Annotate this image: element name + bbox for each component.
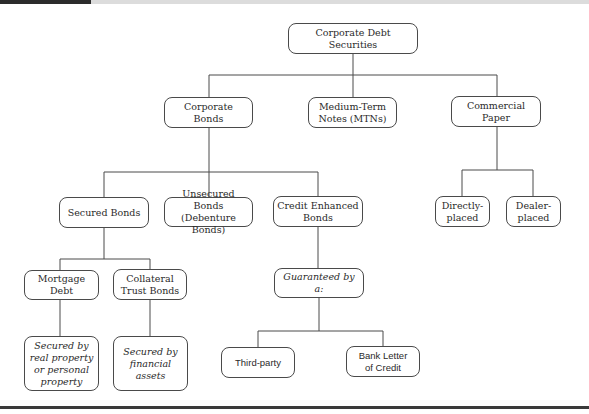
node-guaranteed-by: Guaranteed by a: [274, 268, 364, 298]
node-corporate-bonds: Corporate Bonds [164, 97, 253, 128]
bottom-rule [0, 406, 589, 409]
node-third-party: Third-party [221, 347, 295, 378]
node-commercial-paper: Commercial Paper [451, 96, 541, 127]
node-unsecured-bonds: Unsecured Bonds (Debenture Bonds) [164, 197, 253, 227]
node-mortgage-debt: Mortgage Debt [24, 270, 99, 300]
node-medium-term-notes: Medium-Term Notes (MTNs) [308, 97, 397, 128]
node-collateral-trust-bonds: Collateral Trust Bonds [113, 269, 187, 300]
node-directly-placed: Directly- placed [435, 196, 490, 227]
node-corporate-debt-securities: Corporate Debt Securities [288, 23, 418, 54]
node-credit-enhanced-bonds: Credit Enhanced Bonds [273, 196, 363, 227]
node-dealer-placed: Dealer- placed [506, 196, 561, 227]
node-bank-letter-of-credit: Bank Letter of Credit [346, 346, 420, 377]
node-secured-bonds: Secured Bonds [59, 197, 149, 228]
note-real-property: Secured by real property or personal pro… [24, 336, 99, 391]
note-financial-assets: Secured by financial assets [113, 336, 188, 391]
